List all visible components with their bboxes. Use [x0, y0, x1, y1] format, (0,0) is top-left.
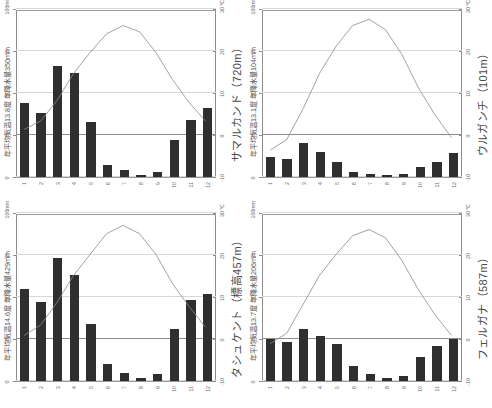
month-label: 7: [121, 386, 127, 408]
axis-tick: [13, 213, 16, 214]
axis-tick: [259, 9, 262, 10]
precipitation-tick-label: 50: [250, 91, 256, 97]
axis-tick: [259, 135, 262, 136]
precipitation-tick-label: 75: [250, 49, 256, 55]
plot-inner: [16, 11, 216, 177]
month-label: 1: [267, 182, 273, 204]
precipitation-tick-label: 100: [4, 210, 10, 219]
month-label: 5: [88, 386, 94, 408]
chart-subtitle: 年平均気温14.6度 年降水量429mm: [2, 204, 12, 408]
month-label: 8: [138, 182, 144, 204]
temperature-tick-label: 20: [219, 253, 225, 259]
axis-tick: [459, 177, 462, 178]
month-label: 1: [21, 182, 27, 204]
axis-tick: [13, 177, 16, 178]
precipitation-tick-label: 75: [4, 253, 10, 259]
month-label: 4: [317, 386, 323, 408]
precipitation-unit-label: mm: [4, 201, 10, 210]
precipitation-unit-label: mm: [250, 0, 256, 6]
temperature-tick-label: -10: [465, 174, 471, 182]
axis-tick: [459, 297, 462, 298]
axis-tick: [259, 177, 262, 178]
temperature-unit-label: ℃: [219, 0, 225, 6]
temperature-tick-label: -10: [465, 378, 471, 386]
axis-tick: [213, 9, 216, 10]
chart-subtitle: 年平均気温13.8度 年降水量350mm: [2, 0, 12, 204]
temperature-tick-label: 30: [465, 7, 471, 13]
month-label: 1: [21, 386, 27, 408]
temperature-tick-label: 20: [219, 49, 225, 55]
axis-tick: [213, 297, 216, 298]
temperature-tick-label: 10: [219, 295, 225, 301]
axis-tick: [259, 381, 262, 382]
precipitation-tick-label: 100: [250, 210, 256, 219]
temperature-line: [16, 215, 214, 381]
chart-panel-samarkand: 年平均気温13.8度 年降水量350mmサマルカンド（720m）02550751…: [0, 0, 246, 204]
chart-panel-urgench: 年平均気温13.1度 年降水量104mmウルガンチ（101m）025507510…: [246, 0, 492, 204]
month-label: 8: [384, 182, 390, 204]
gridline: [16, 8, 216, 9]
plot-area: [262, 10, 462, 178]
axis-tick: [13, 339, 16, 340]
month-label: 6: [105, 386, 111, 408]
month-label: 7: [121, 182, 127, 204]
temperature-tick-label: 0: [465, 135, 471, 138]
axis-tick: [259, 255, 262, 256]
precipitation-tick-label: 75: [4, 49, 10, 55]
axis-tick: [13, 135, 16, 136]
temperature-tick-label: 10: [465, 91, 471, 97]
month-label: 9: [155, 182, 161, 204]
month-label: 11: [188, 386, 194, 408]
month-label: 6: [105, 182, 111, 204]
axis-tick: [259, 51, 262, 52]
axis-tick: [213, 339, 216, 340]
temperature-tick-label: 20: [465, 49, 471, 55]
axis-tick: [459, 381, 462, 382]
gridline: [262, 212, 462, 213]
climograph-sheet: 年平均気温13.8度 年降水量350mmサマルカンド（720m）02550751…: [0, 0, 492, 408]
axis-tick: [13, 297, 16, 298]
axis-tick: [259, 339, 262, 340]
precipitation-tick-label: 75: [250, 253, 256, 259]
month-label: 8: [384, 386, 390, 408]
month-label: 10: [171, 386, 177, 408]
temperature-line: [262, 11, 460, 177]
month-label: 11: [188, 182, 194, 204]
axis-tick: [213, 213, 216, 214]
chart-title: タシュケント（標高457m）: [228, 204, 244, 408]
month-label: 10: [417, 386, 423, 408]
axis-tick: [259, 93, 262, 94]
temperature-tick-label: 10: [465, 295, 471, 301]
month-label: 4: [317, 182, 323, 204]
month-label: 8: [138, 386, 144, 408]
month-label: 5: [334, 386, 340, 408]
gridline: [16, 212, 216, 213]
temperature-tick-label: -10: [219, 174, 225, 182]
temperature-tick-label: 30: [465, 211, 471, 217]
chart-subtitle: 年平均気温13.7度 年降水量206mm: [248, 204, 258, 408]
precipitation-tick-label: 25: [4, 337, 10, 343]
month-label: 9: [401, 182, 407, 204]
temperature-tick-label: 0: [219, 339, 225, 342]
temperature-tick-label: 10: [219, 91, 225, 97]
chart-subtitle: 年平均気温13.1度 年降水量104mm: [248, 0, 258, 204]
month-label: 12: [205, 386, 211, 408]
temperature-tick-label: 0: [465, 339, 471, 342]
month-label: 12: [451, 182, 457, 204]
month-label: 2: [38, 386, 44, 408]
axis-tick: [459, 255, 462, 256]
axis-tick: [459, 9, 462, 10]
axis-tick: [213, 177, 216, 178]
climograph-fergana: 年平均気温13.7度 年降水量206mmフェルガナ（587m）025507510…: [246, 204, 492, 408]
temperature-tick-label: 20: [465, 253, 471, 259]
temperature-unit-label: ℃: [219, 204, 225, 210]
precipitation-tick-label: 25: [4, 133, 10, 139]
plot-inner: [16, 215, 216, 381]
climograph-urgench: 年平均気温13.1度 年降水量104mmウルガンチ（101m）025507510…: [246, 0, 492, 204]
axis-tick: [13, 51, 16, 52]
precipitation-tick-label: 100: [4, 6, 10, 15]
axis-tick: [213, 93, 216, 94]
month-label: 10: [417, 182, 423, 204]
month-label: 7: [367, 386, 373, 408]
month-label: 5: [334, 182, 340, 204]
